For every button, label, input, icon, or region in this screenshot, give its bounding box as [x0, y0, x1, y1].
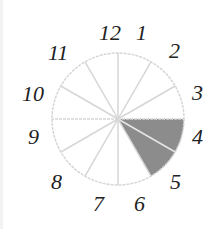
hour-label-8: 8: [51, 169, 62, 194]
hour-label-7: 7: [93, 191, 105, 216]
hour-label-12: 12: [99, 20, 121, 45]
hour-label-10: 10: [22, 81, 44, 106]
hour-labels: 12 1 2 3 4 5 6 7 8 9 10 11: [22, 20, 203, 216]
hour-label-9: 9: [28, 124, 39, 149]
hour-label-3: 3: [191, 80, 203, 105]
shaded-sector: [118, 119, 184, 176]
hour-label-5: 5: [170, 169, 181, 194]
hour-label-1: 1: [136, 20, 147, 45]
clock-face: 12 1 2 3 4 5 6 7 8 9 10 11: [0, 0, 220, 229]
hour-label-6: 6: [134, 191, 145, 216]
hour-label-4: 4: [192, 124, 203, 149]
hour-label-11: 11: [48, 40, 68, 65]
hour-label-2: 2: [169, 38, 180, 63]
clock-diagram: 12 1 2 3 4 5 6 7 8 9 10 11: [0, 0, 220, 229]
